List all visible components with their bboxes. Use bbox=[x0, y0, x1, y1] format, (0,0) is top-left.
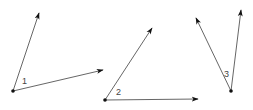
angle-2-label: 2 bbox=[116, 87, 121, 97]
angle-2-ray-b-arrow-icon bbox=[105, 99, 198, 100]
angle-1-label: 1 bbox=[22, 76, 27, 86]
angle-3-vertex-dot bbox=[229, 89, 233, 93]
angle-diagram: 1 2 3 bbox=[0, 0, 253, 110]
angle-2: 2 bbox=[103, 28, 198, 102]
angle-3: 3 bbox=[196, 10, 241, 93]
angle-1-vertex-dot bbox=[11, 89, 15, 93]
angle-2-ray-a-arrow-icon bbox=[105, 28, 152, 100]
angle-2-vertex-dot bbox=[103, 98, 107, 102]
angle-3-ray-b-arrow-icon bbox=[231, 10, 241, 91]
angle-3-ray-a-arrow-icon bbox=[196, 18, 231, 91]
angle-1: 1 bbox=[11, 13, 103, 93]
angle-3-label: 3 bbox=[224, 69, 229, 79]
